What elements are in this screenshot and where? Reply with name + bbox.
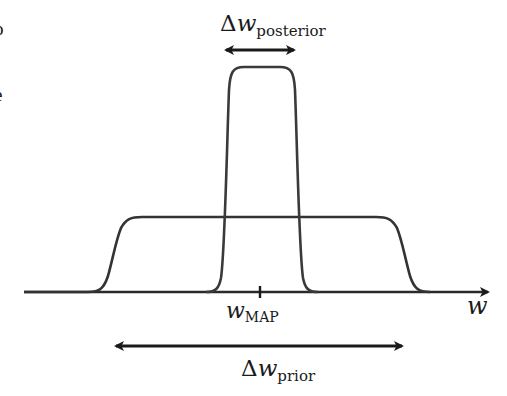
prior-width-label: Δwprior	[241, 355, 316, 385]
w-map-label: wMAP	[226, 298, 279, 325]
prior-curve	[24, 217, 430, 292]
posterior-width-label: Δwposterior	[220, 10, 327, 40]
posterior-prior-diagram: wMAP w Δwposterior Δwprior	[0, 0, 507, 396]
posterior-curve	[206, 67, 318, 292]
w-axis-label: w	[467, 292, 488, 320]
